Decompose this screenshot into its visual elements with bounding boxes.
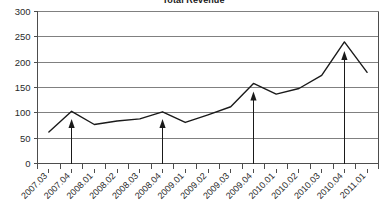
y-tick-label-0: 0: [25, 158, 30, 169]
x-axis-ticks: [38, 164, 379, 173]
annotation-arrow-2008.04: [159, 119, 165, 164]
arrow-head-2009.04: [250, 92, 256, 101]
arrow-head-2010.04: [341, 51, 347, 60]
arrow-head-2007.04: [69, 119, 75, 128]
annotation-arrow-2009.04: [250, 92, 256, 164]
y-tick-label-150: 150: [15, 82, 31, 93]
x-axis-labels: 2007.032007.042008.012008.022008.032008.…: [19, 171, 367, 201]
y-tick-label-250: 250: [15, 31, 31, 42]
annotation-arrows: [69, 51, 348, 163]
annotation-arrow-2010.04: [341, 51, 347, 163]
arrow-head-2008.04: [159, 119, 165, 128]
y-tick-label-50: 50: [20, 133, 31, 144]
x-tick-label-2011.01: 2011.01: [338, 171, 368, 201]
chart-container: Total Revenue 0501001502002503002007.032…: [0, 0, 387, 212]
line-chart-plot: 0501001502002503002007.032007.042008.012…: [0, 0, 387, 212]
y-tick-label-200: 200: [15, 57, 31, 68]
y-axis-ticks: 050100150200250300: [15, 6, 38, 169]
gridlines: [38, 12, 379, 164]
y-tick-label-300: 300: [15, 6, 31, 17]
data-line-total-revenue: [49, 42, 367, 132]
y-tick-label-100: 100: [15, 107, 31, 118]
annotation-arrow-2007.04: [69, 119, 75, 164]
